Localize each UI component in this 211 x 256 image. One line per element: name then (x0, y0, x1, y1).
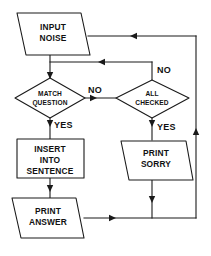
node-input-noise[interactable]: INPUT NOISE (17, 13, 90, 55)
connector-insert-to-print-answer (47, 178, 53, 198)
connector-input-to-right-rail (88, 33, 196, 39)
connector-loopback-bar (50, 59, 152, 65)
edge-label-match-no: NO (88, 85, 102, 95)
node-insert-line2: INTO (40, 155, 61, 165)
connector-right-rail-vertical (193, 36, 199, 218)
node-print-answer-line1: PRINT (35, 206, 62, 216)
edge-label-all-checked-yes: YES (157, 122, 176, 132)
connector-match-no-to-allchecked (85, 95, 116, 101)
edge-label-all-checked-no: NO (157, 65, 171, 75)
node-print-answer[interactable]: PRINT ANSWER (12, 198, 84, 238)
connector-input-to-match (47, 55, 53, 79)
node-insert-into-sentence[interactable]: INSERT INTO SENTENCE (17, 139, 84, 178)
node-match-question[interactable]: MATCH QUESTION (15, 78, 85, 118)
connector-allchecked-yes-to-sorry (149, 118, 155, 140)
node-all-checked-line2: CHECKED (135, 99, 168, 106)
node-print-sorry-line2: SORRY (141, 159, 171, 169)
connector-sorry-to-bottom-bar (149, 180, 155, 218)
node-input-noise-line1: INPUT (40, 22, 67, 32)
node-insert-line3: SENTENCE (27, 166, 74, 176)
node-print-sorry[interactable]: PRINT SORRY (121, 141, 193, 180)
node-print-answer-line2: ANSWER (29, 217, 67, 227)
node-all-checked[interactable]: ALL CHECKED (116, 80, 189, 118)
node-print-sorry-line1: PRINT (143, 148, 170, 158)
edge-label-match-yes: YES (54, 120, 73, 130)
flowchart-canvas: INPUT NOISE MATCH QUESTION ALL CHECKED I… (0, 0, 211, 256)
connector-print-answer-to-right-rail (84, 215, 196, 221)
node-insert-line1: INSERT (34, 144, 66, 154)
connector-match-yes-to-insert (47, 118, 53, 139)
node-input-noise-line2: NOISE (40, 33, 67, 43)
node-match-question-line2: QUESTION (32, 99, 67, 107)
node-match-question-line1: MATCH (38, 90, 62, 97)
node-all-checked-line1: ALL (145, 90, 158, 97)
